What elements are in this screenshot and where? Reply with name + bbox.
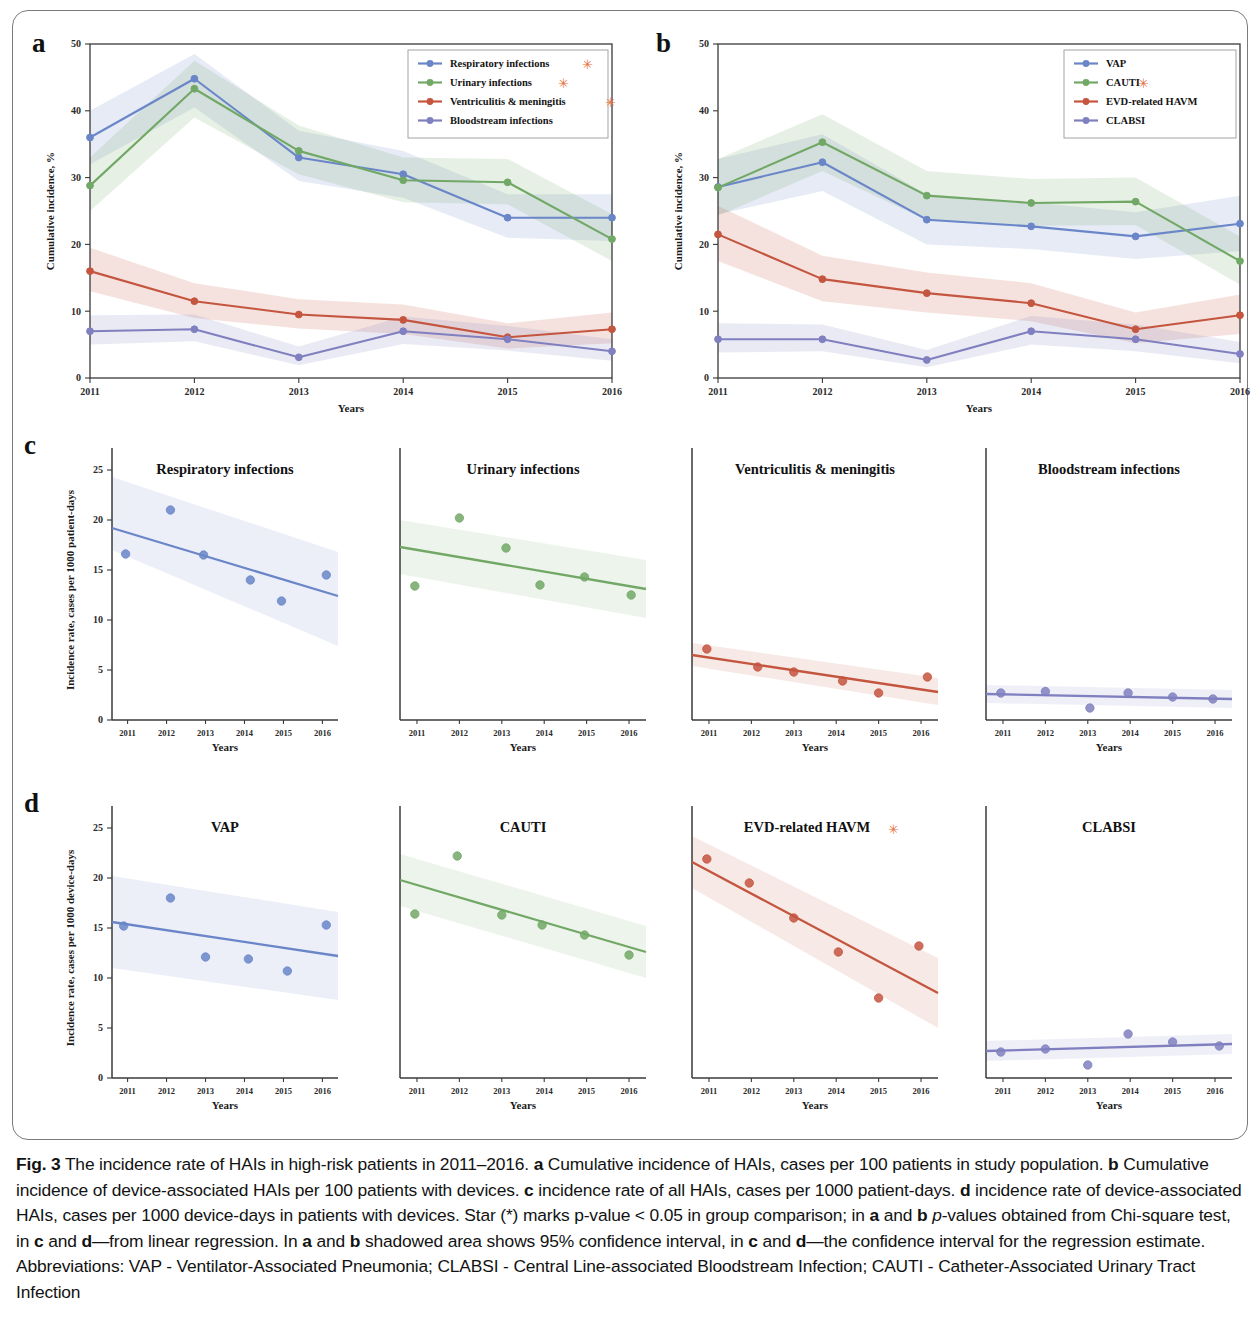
x-tick-label: 2016 bbox=[913, 1086, 930, 1096]
data-point bbox=[1028, 300, 1035, 307]
x-tick-label: 2016 bbox=[314, 728, 331, 738]
data-point bbox=[400, 177, 407, 184]
x-tick-label: 2013 bbox=[785, 1086, 802, 1096]
x-axis-label: Years bbox=[1096, 741, 1123, 753]
data-point bbox=[754, 663, 762, 671]
data-point bbox=[997, 1048, 1005, 1056]
y-tick-label: 30 bbox=[71, 172, 81, 183]
data-point bbox=[580, 573, 588, 581]
x-tick-label: 2016 bbox=[1207, 728, 1224, 738]
significance-star: ✳ bbox=[558, 76, 569, 91]
legend-swatch-marker bbox=[1083, 79, 1090, 86]
subplot-title: Ventriculitis & meningitis bbox=[735, 461, 895, 477]
data-point bbox=[166, 506, 174, 514]
data-point bbox=[277, 597, 285, 605]
y-tick-label: 10 bbox=[93, 972, 103, 983]
x-tick-label: 2016 bbox=[314, 1086, 331, 1096]
y-tick-label: 0 bbox=[704, 372, 709, 383]
figure-caption: Fig. 3 The incidence rate of HAIs in hig… bbox=[16, 1152, 1248, 1305]
data-point bbox=[609, 236, 616, 243]
x-axis-label: Years bbox=[802, 741, 829, 753]
subplot-title: VAP bbox=[211, 819, 239, 835]
x-tick-label: 2016 bbox=[621, 1086, 638, 1096]
x-tick-label: 2014 bbox=[828, 1086, 846, 1096]
legend-label: CLABSI bbox=[1106, 115, 1145, 126]
data-point bbox=[121, 550, 129, 558]
legend-swatch-marker bbox=[427, 98, 434, 105]
significance-star: ✳ bbox=[605, 95, 616, 110]
x-tick-label: 2013 bbox=[493, 1086, 510, 1096]
x-tick-label: 2016 bbox=[621, 728, 638, 738]
figure-page: a 01020304050201120122013201420152016Yea… bbox=[0, 0, 1260, 1330]
x-tick-label: 2013 bbox=[197, 1086, 214, 1096]
data-point bbox=[1132, 198, 1139, 205]
panel-b-letter: b bbox=[656, 30, 671, 57]
x-tick-label: 2015 bbox=[275, 728, 292, 738]
x-tick-label: 2015 bbox=[275, 1086, 292, 1096]
data-point bbox=[1209, 695, 1217, 703]
subplot-title: Respiratory infections bbox=[156, 461, 294, 477]
legend-label: Ventriculitis & meningitis bbox=[450, 96, 566, 107]
panel-a-plot: 01020304050201120122013201420152016Years… bbox=[28, 26, 628, 416]
x-tick-label: 2012 bbox=[743, 1086, 760, 1096]
data-point bbox=[1084, 1061, 1092, 1069]
panel-b-plot: 01020304050201120122013201420152016Years… bbox=[656, 26, 1256, 416]
data-point bbox=[295, 147, 302, 154]
data-point bbox=[191, 75, 198, 82]
significance-star: ✳ bbox=[1138, 76, 1149, 91]
x-tick-label: 2014 bbox=[1021, 386, 1041, 397]
data-point bbox=[1168, 693, 1176, 701]
data-point bbox=[790, 668, 798, 676]
data-point bbox=[322, 921, 330, 929]
data-point bbox=[502, 544, 510, 552]
x-tick-label: 2012 bbox=[451, 1086, 468, 1096]
x-axis-label: Years bbox=[966, 402, 993, 414]
legend-swatch-marker bbox=[1083, 98, 1090, 105]
panel-a-letter: a bbox=[32, 30, 46, 57]
subplot-title: Bloodstream infections bbox=[1038, 461, 1180, 477]
x-tick-label: 2011 bbox=[119, 1086, 136, 1096]
significance-star: ✳ bbox=[582, 57, 593, 72]
data-point bbox=[609, 214, 616, 221]
y-axis-label: Cumulative incidence, % bbox=[672, 152, 684, 270]
panel-b: b 01020304050201120122013201420152016Yea… bbox=[656, 26, 1256, 416]
x-tick-label: 2011 bbox=[409, 1086, 426, 1096]
subplot-title: CAUTI bbox=[500, 819, 547, 835]
y-tick-label: 15 bbox=[93, 922, 103, 933]
y-tick-label: 25 bbox=[93, 822, 103, 833]
legend-label: Bloodstream infections bbox=[450, 115, 553, 126]
data-point bbox=[609, 326, 616, 333]
legend-swatch-marker bbox=[427, 79, 434, 86]
x-tick-label: 2015 bbox=[498, 386, 518, 397]
x-tick-label: 2016 bbox=[1230, 386, 1250, 397]
data-point bbox=[295, 154, 302, 161]
x-axis-label: Years bbox=[510, 1099, 537, 1111]
data-point bbox=[874, 994, 882, 1002]
data-point bbox=[1132, 336, 1139, 343]
data-point bbox=[295, 311, 302, 318]
x-axis-label: Years bbox=[510, 741, 537, 753]
x-tick-label: 2011 bbox=[701, 728, 718, 738]
x-tick-label: 2012 bbox=[451, 728, 468, 738]
data-point bbox=[87, 268, 94, 275]
x-tick-label: 2015 bbox=[1164, 1086, 1181, 1096]
significance-star: ✳ bbox=[888, 822, 899, 837]
y-tick-label: 20 bbox=[93, 872, 103, 883]
x-tick-label: 2015 bbox=[578, 728, 595, 738]
data-point bbox=[1168, 1038, 1176, 1046]
data-point bbox=[411, 582, 419, 590]
data-point bbox=[1124, 689, 1132, 697]
data-point bbox=[838, 677, 846, 685]
data-point bbox=[819, 276, 826, 283]
legend-label: Urinary infections bbox=[450, 77, 532, 88]
x-tick-label: 2015 bbox=[870, 1086, 887, 1096]
data-point bbox=[1132, 233, 1139, 240]
x-tick-label: 2014 bbox=[393, 386, 413, 397]
x-tick-label: 2015 bbox=[870, 728, 887, 738]
data-point bbox=[191, 298, 198, 305]
x-tick-label: 2015 bbox=[1126, 386, 1146, 397]
data-point bbox=[609, 348, 616, 355]
legend-label: CAUTI bbox=[1106, 77, 1140, 88]
data-point bbox=[923, 290, 930, 297]
data-point bbox=[1028, 223, 1035, 230]
